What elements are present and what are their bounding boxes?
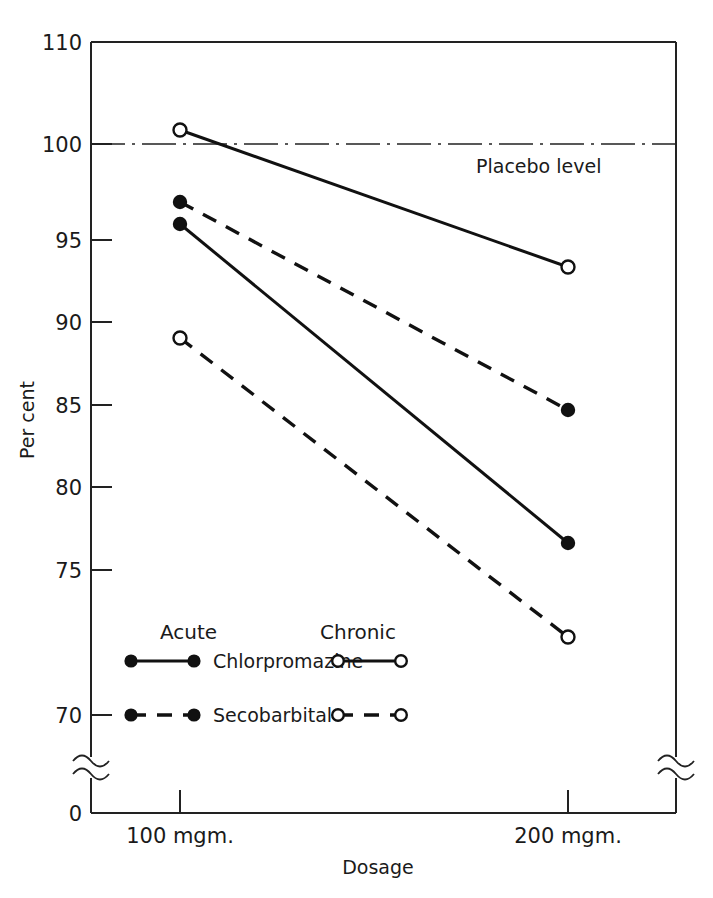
axis-break-right	[658, 756, 694, 780]
data-point-secobarbital-acute-100mgm[interactable]	[174, 196, 186, 208]
legend-row-secobarbital[interactable]: Secobarbital	[125, 704, 406, 726]
y-tick-label-85: 85	[55, 394, 82, 418]
y-tick-label-100: 100	[42, 133, 82, 157]
y-tick-label-80: 80	[55, 476, 82, 500]
data-point-secobarbital-acute-200mgm[interactable]	[562, 404, 574, 416]
axis-break-left	[73, 756, 109, 780]
y-tick-label-0: 0	[69, 802, 82, 826]
series-chlorpromazine-chronic[interactable]	[174, 124, 575, 274]
series-line-chlorpromazine-chronic	[180, 130, 568, 267]
placebo-reference: Placebo level	[91, 144, 676, 177]
legend-marker-acute-filled-left-2	[125, 709, 136, 720]
line-chart-canvas: 110 100 95 90 85 80 75 70 0 Per cent 100…	[0, 0, 713, 898]
legend: Acute Chronic Chlorpromazine Secobarbita…	[125, 620, 406, 726]
data-point-secobarbital-chronic-200mgm[interactable]	[562, 631, 575, 644]
placebo-level-label: Placebo level	[476, 155, 601, 177]
y-tick-label-70: 70	[55, 704, 82, 728]
y-ticks	[91, 144, 112, 715]
data-point-chlorpromazine-chronic-100mgm[interactable]	[174, 124, 187, 137]
y-axis-title: Per cent	[16, 381, 38, 459]
data-point-chlorpromazine-acute-200mgm[interactable]	[562, 537, 574, 549]
series-line-chlorpromazine-acute	[180, 224, 568, 543]
series-line-secobarbital-acute	[180, 202, 568, 410]
x-axis-title: Dosage	[342, 856, 414, 878]
legend-marker-chronic-open-right	[395, 655, 407, 667]
legend-marker-acute-filled-left	[125, 655, 136, 666]
legend-group-header-acute: Acute	[160, 620, 217, 644]
x-tick-label-100mgm: 100 mgm.	[126, 824, 234, 848]
legend-marker-acute-filled-right-2	[188, 709, 199, 720]
legend-row-chlorpromazine[interactable]: Chlorpromazine	[125, 650, 406, 672]
y-tick-label-75: 75	[55, 559, 82, 583]
data-point-chlorpromazine-acute-100mgm[interactable]	[174, 218, 186, 230]
legend-marker-acute-filled-right	[188, 655, 199, 666]
series-secobarbital-chronic[interactable]	[174, 332, 575, 644]
legend-label-secobarbital: Secobarbital	[213, 704, 332, 726]
legend-group-header-chronic: Chronic	[320, 620, 396, 644]
series-chlorpromazine-acute[interactable]	[174, 218, 574, 549]
x-tick-label-200mgm: 200 mgm.	[514, 824, 622, 848]
y-tick-labels: 110 100 95 90 85 80 75 70 0	[42, 31, 82, 826]
y-tick-label-90: 90	[55, 311, 82, 335]
x-ticks	[180, 790, 568, 813]
chart-figure: 110 100 95 90 85 80 75 70 0 Per cent 100…	[0, 0, 713, 898]
y-tick-label-95: 95	[55, 229, 82, 253]
data-point-chlorpromazine-chronic-200mgm[interactable]	[562, 261, 575, 274]
legend-marker-chronic-open-right-2	[395, 709, 407, 721]
y-tick-label-110: 110	[42, 31, 82, 55]
legend-marker-chronic-open-left-2	[332, 709, 344, 721]
legend-marker-chronic-open-left	[332, 655, 344, 667]
data-point-secobarbital-chronic-100mgm[interactable]	[174, 332, 187, 345]
